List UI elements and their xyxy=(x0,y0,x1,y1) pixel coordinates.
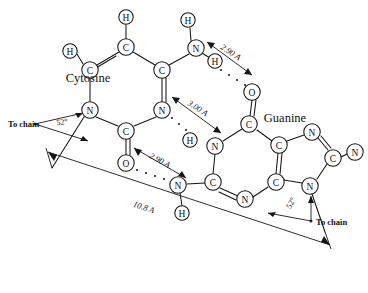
atom-symbol-g-c2: C xyxy=(210,178,216,188)
atom-symbol-c-c2: C xyxy=(123,127,129,137)
to-chain-label-right: To chain xyxy=(316,217,347,227)
atom-g-n1: N xyxy=(207,138,223,154)
hydrogen-bonds xyxy=(136,69,246,180)
atom-c-n4: N xyxy=(188,40,204,56)
atom-symbol-g-n1: N xyxy=(212,142,219,152)
atom-symbol-g-c4: C xyxy=(273,178,279,188)
atom-symbol-c-n1: N xyxy=(87,106,94,116)
atom-symbol-g-c6: C xyxy=(246,120,252,130)
atom-symbol-c-n3: N xyxy=(159,106,166,116)
distance-label-hbond-middle: 3.00 A xyxy=(185,97,210,118)
atom-g-n3: N xyxy=(237,191,253,207)
atom-symbol-g-n2: N xyxy=(175,181,182,191)
distance-label-hbond-bottom: 2.90 A xyxy=(148,150,173,170)
atom-g-n2-h: H xyxy=(175,206,189,220)
atom-g-n2: N xyxy=(170,177,186,193)
atom-symbol-g-c8: C xyxy=(330,154,336,164)
atom-c-n4-h-up: H xyxy=(181,13,195,27)
atom-symbol-c-n4-h-dn: H xyxy=(212,57,219,67)
atom-symbol-g-n2-h: H xyxy=(179,209,186,219)
atom-symbol-c-n4: N xyxy=(193,44,200,54)
base-pair-diagram: HCHCCNNCONHHOCNHCNHNCCNCNN Cytosine Guan… xyxy=(0,0,368,293)
atom-symbol-g-n9: N xyxy=(307,182,314,192)
atom-symbol-g-n7: N xyxy=(309,128,316,138)
atom-symbol-g-c5: C xyxy=(276,141,282,151)
atom-symbol-g-n1-h: H xyxy=(187,136,194,146)
atom-g-c8: C xyxy=(325,150,341,166)
molecule-label-guanine: Guanine xyxy=(264,111,307,125)
atom-c-n3: N xyxy=(154,102,170,118)
atom-c-c4: C xyxy=(154,62,170,78)
atom-c-n4-h-dn: H xyxy=(208,54,222,68)
atom-g-c5: C xyxy=(271,137,287,153)
atom-symbol-c-o2: O xyxy=(123,159,130,169)
atom-symbol-c-h-left: H xyxy=(67,47,74,57)
atom-g-n7: N xyxy=(304,124,320,140)
atom-g-c4: C xyxy=(268,174,284,190)
atom-symbol-g-n-amino: N xyxy=(352,148,359,158)
atom-symbol-c-c5: C xyxy=(123,43,129,53)
molecule-label-cytosine: Cytosine xyxy=(66,71,111,85)
atom-g-c6: C xyxy=(241,116,257,132)
angle-label-cytosine: 52° xyxy=(56,117,68,127)
distance-label-overall-span: 10.8 A xyxy=(132,199,157,216)
atom-g-n-amino: N xyxy=(347,144,363,160)
atom-symbol-c-n4-h-up: H xyxy=(185,16,192,26)
atom-c-n1: N xyxy=(82,102,98,118)
atom-symbol-g-o6: O xyxy=(249,88,256,98)
atom-c-c5: C xyxy=(118,39,134,55)
atom-c-c2: C xyxy=(118,123,134,139)
atom-g-n1-h: H xyxy=(183,133,197,147)
atom-c-h-left: H xyxy=(63,44,77,58)
atoms-layer: HCHCCNNCONHHOCNHCNHNCCNCNN xyxy=(63,10,363,220)
atom-c-o2: O xyxy=(118,155,134,171)
angle-markers xyxy=(34,113,315,223)
atom-symbol-c-h-top: H xyxy=(123,13,130,23)
to-chain-label-left: To chain xyxy=(8,119,39,129)
atom-symbol-g-n3: N xyxy=(242,195,249,205)
figure-canvas: HCHCCNNCONHHOCNHCNHNCCNCNN Cytosine Guan… xyxy=(0,0,368,293)
atom-g-o6: O xyxy=(244,84,260,100)
atom-g-c2: C xyxy=(205,174,221,190)
atom-g-n9: N xyxy=(302,178,318,194)
atom-c-h-top: H xyxy=(119,10,133,24)
atom-symbol-c-c4: C xyxy=(159,66,165,76)
angle-label-guanine: 52° xyxy=(284,196,297,210)
